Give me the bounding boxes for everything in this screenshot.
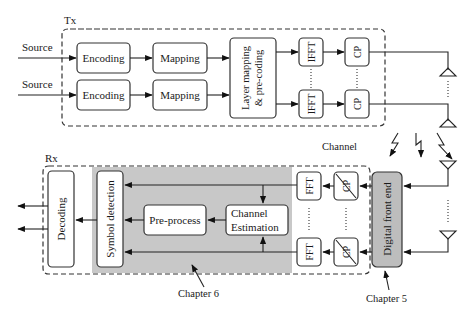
chapter5-label: Chapter 5 xyxy=(366,293,407,304)
lightning-arrow-3 xyxy=(437,133,452,159)
rx-antenna-feed-2 xyxy=(404,239,448,252)
layer-mapping-label-line1: Layer mapping xyxy=(240,45,251,110)
ifft-label-2: IFFT xyxy=(306,94,317,115)
cp-label-1: CP xyxy=(352,45,363,58)
lightning-arrow-2 xyxy=(416,133,421,157)
digital-front-end-label: Digital front end xyxy=(381,182,393,256)
symbol-detection-label: Symbol detection xyxy=(104,180,116,258)
fft-label-2: FFT xyxy=(304,243,315,260)
mapping-label-1: Mapping xyxy=(160,52,200,64)
channel-section: Channel xyxy=(322,133,452,159)
rx-antenna-feed-1 xyxy=(404,169,448,186)
encoding-label-1: Encoding xyxy=(82,52,125,64)
channel-estimation-label-line1: Channel xyxy=(231,207,268,219)
cp-label-2: CP xyxy=(352,97,363,110)
tx-antenna-feed-1 xyxy=(369,52,448,70)
mimo-ofdm-system-diagram: Tx Source Source Encoding Encoding Mappi… xyxy=(0,0,474,314)
fft-label-1: FFT xyxy=(304,177,315,194)
channel-label: Channel xyxy=(322,141,357,152)
decoding-label: Decoding xyxy=(55,197,67,240)
source-label-2: Source xyxy=(22,78,53,90)
tx-antenna-feed-2 xyxy=(369,104,448,121)
source-label-1: Source xyxy=(22,41,53,53)
pre-process-label: Pre-process xyxy=(149,214,200,226)
tx-label: Tx xyxy=(64,14,77,26)
ifft-label-1: IFFT xyxy=(306,42,317,63)
rx-antenna-icon-1 xyxy=(440,161,456,169)
chapter5-pointer-arrow xyxy=(385,271,389,290)
lightning-arrow-1 xyxy=(390,133,398,156)
mapping-label-2: Mapping xyxy=(160,89,200,101)
rx-antenna-icon-2 xyxy=(440,231,456,239)
channel-estimation-label-line2: Estimation xyxy=(231,221,279,233)
rx-label: Rx xyxy=(45,152,58,164)
chapter6-label: Chapter 6 xyxy=(178,288,219,299)
tx-section: Tx Source Source Encoding Encoding Mappi… xyxy=(18,14,456,127)
layer-mapping-label-line2: & pre-coding xyxy=(253,49,264,106)
encoding-label-2: Encoding xyxy=(82,89,125,101)
rx-section: Rx Decoding Symbol detection Pre-process… xyxy=(18,152,456,274)
